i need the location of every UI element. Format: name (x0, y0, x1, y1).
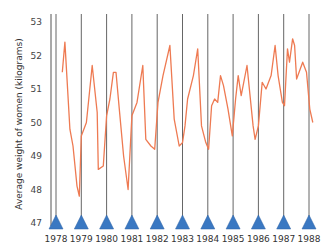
y-tick-label: 48 (31, 185, 43, 195)
x-tick-label: 1984 (196, 234, 219, 244)
series-line-average-weight (62, 39, 312, 196)
x-tick-label: 1986 (247, 234, 270, 244)
y-tick-label: 49 (31, 151, 43, 161)
triangle-marker-icon (100, 215, 114, 229)
triangle-marker-icon (125, 215, 139, 229)
y-tick-label: 47 (31, 218, 42, 228)
x-tick-label: 1980 (95, 234, 118, 244)
x-tick-label: 1982 (146, 234, 169, 244)
x-tick-label: 1988 (298, 234, 321, 244)
x-tick-label: 1981 (120, 234, 143, 244)
triangle-marker-icon (277, 215, 291, 229)
y-tick-label: 50 (31, 118, 43, 128)
triangle-marker-icon (251, 215, 265, 229)
x-tick-label: 1983 (171, 234, 194, 244)
y-tick-label: 53 (31, 17, 42, 27)
year-gridlines (56, 14, 309, 218)
triangle-marker-icon (201, 215, 215, 229)
x-axis-ticks: 1978197919801981198219831984198519861987… (45, 234, 321, 244)
x-tick-label: 1979 (70, 234, 93, 244)
x-tick-label: 1987 (272, 234, 295, 244)
year-markers (49, 215, 316, 229)
y-tick-label: 52 (31, 51, 42, 61)
x-tick-label: 1985 (222, 234, 245, 244)
line-chart: 47484950515253 Average weight of women (… (0, 0, 335, 247)
triangle-marker-icon (74, 215, 88, 229)
x-tick-label: 1978 (45, 234, 68, 244)
y-axis-title: Average weight of women (kilograms) (14, 38, 24, 209)
triangle-marker-icon (150, 215, 164, 229)
triangle-marker-icon (226, 215, 240, 229)
triangle-marker-icon (302, 215, 316, 229)
triangle-marker-icon (176, 215, 190, 229)
y-axis-ticks: 47484950515253 (31, 17, 43, 228)
y-tick-label: 51 (31, 84, 42, 94)
